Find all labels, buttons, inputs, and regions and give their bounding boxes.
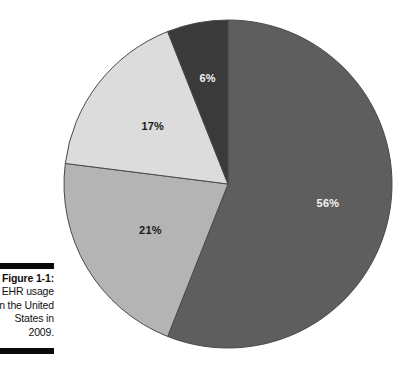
pie-chart: 56%21%17%6% [60,0,406,368]
pie-slice-label-21: 21% [139,224,162,236]
figure-caption-block: Figure 1-1: EHR usage in the United Stat… [0,258,54,358]
caption-line-2: in the United [0,299,54,312]
caption-line-label: Figure 1-1: [0,272,54,285]
caption-line-4: 2009. [0,326,54,339]
caption-rule-bottom [0,348,54,354]
caption-rule-top [0,263,54,269]
caption-line-1: EHR usage [0,285,54,298]
pie-slice-group [64,20,392,348]
caption-line-3: States in [0,312,54,325]
pie-slice-label-56: 56% [317,197,340,209]
figure-caption-text: Figure 1-1: EHR usage in the United Stat… [0,272,54,339]
pie-slice-label-6: 6% [200,72,216,84]
pie-chart-svg: 56%21%17%6% [60,0,406,368]
pie-slice-label-17: 17% [141,120,164,132]
